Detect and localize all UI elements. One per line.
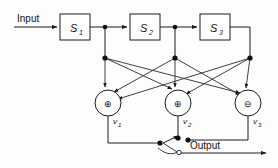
summer-v2-subscript: 2 [187,122,192,128]
block-s1[interactable]: S 1 [60,14,90,40]
v3-output-wire [188,116,248,140]
junction-dot-fan2 [172,55,177,60]
junction-dot-fan3 [247,55,252,60]
fan2-to-v3-wire [175,58,240,95]
summer-v3-subscript: 3 [258,122,262,128]
fan3-to-v2-wire [186,58,250,94]
block-s3[interactable]: S 3 [200,14,230,40]
switch-open-contact[interactable] [177,150,181,154]
output-label: Output [190,140,220,151]
junction-dot-switch-in [157,140,162,145]
block-s1-label: S [70,22,78,34]
block-s2-label: S [140,22,148,34]
block-s2-subscript: 2 [148,29,153,36]
block-diagram-svg: S 1 S 2 S 3 ⊕ v 1 ⊕ v 2 ⊖ v [0,0,278,168]
junction-dot-fan1 [102,55,107,60]
junction-dot-tap1 [103,25,108,30]
fan3-to-v3-wire [246,58,250,88]
block-s1-subscript: 1 [79,29,83,36]
junction-dot-tap2 [173,25,178,30]
summer-v2-symbol: ⊕ [174,99,182,109]
summer-v3-symbol: ⊖ [244,99,252,109]
summer-v1-subscript: 1 [118,122,121,128]
fan1-to-v2-wire [105,58,172,89]
summer-v1-symbol: ⊕ [104,99,112,109]
s3-output-wire [230,27,250,58]
junction-dot-v2-contact [175,135,180,140]
block-s3-label: S [210,22,218,34]
block-s2[interactable]: S 2 [130,14,160,40]
input-label: Input [17,13,39,24]
diagram-canvas: S 1 S 2 S 3 ⊕ v 1 ⊕ v 2 ⊖ v [0,0,278,168]
block-s3-subscript: 3 [219,29,223,36]
